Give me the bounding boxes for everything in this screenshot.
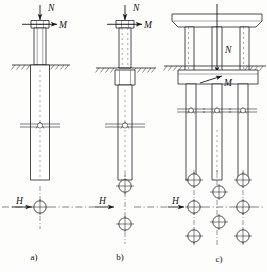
panel-b-shaft-below-ground [118,85,132,180]
engineering-figure: N M H a) N M H b) N M H c) [0,0,267,272]
panel-b-label-M: M [143,20,153,30]
panel-a-label-M: M [58,20,68,30]
panel-c-label-N: N [224,45,232,55]
panel-a-caption: a) [31,252,38,262]
panel-c-plan [168,170,252,245]
panel-a-section-marker [20,122,60,129]
panel-c-elevation [164,4,267,180]
panel-b-label-H: H [98,196,107,206]
panel-c-caption: c) [216,254,223,264]
panel-b-label-N: N [132,3,140,13]
panel-a-shaft-above-ground [34,28,46,65]
panel-b-shaft-above-ground [119,28,131,68]
panel-a-label-N: N [47,3,55,13]
panel-c-piles [186,84,248,180]
panel-b-plan [95,172,134,244]
panel-b-caption: b) [116,252,124,262]
panel-b-elevation [96,5,157,180]
panel-c-label-M: M [223,78,233,88]
panel-a-label-H: H [15,196,24,206]
panel-a-plan [12,186,49,229]
panel-b-section-marker [105,122,145,129]
panel-a-elevation [12,5,71,180]
figure-canvas: N M H a) N M H b) N M H c) [0,0,267,272]
panel-c-label-H: H [171,196,180,206]
panel-b-enlarged-collar [115,70,135,85]
